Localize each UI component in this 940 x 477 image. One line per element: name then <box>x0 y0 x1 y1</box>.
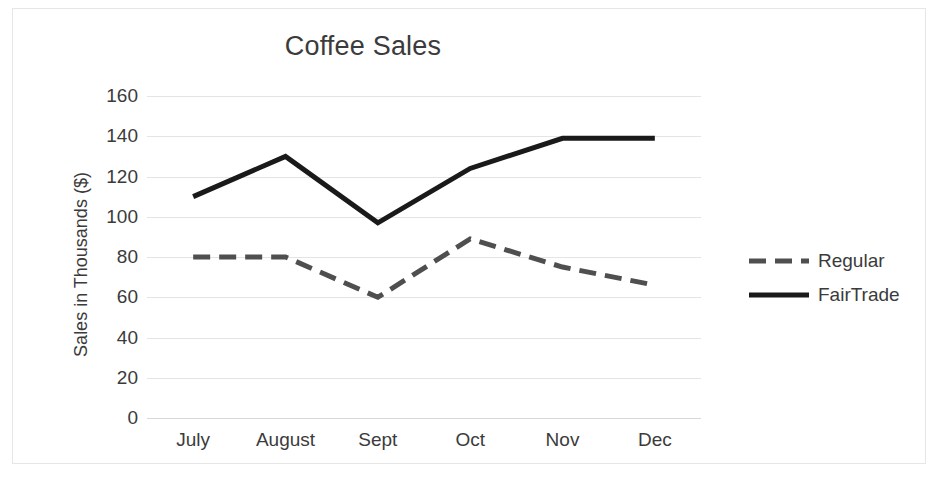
chart-legend: RegularFairTrade <box>749 244 919 312</box>
legend-item-regular[interactable]: Regular <box>749 244 919 278</box>
chart-frame: Coffee Sales Sales in Thousands ($) 0204… <box>12 8 926 464</box>
y-axis-tick-label: 0 <box>127 407 138 429</box>
plot-area: 020406080100120140160 JulyAugustSeptOctN… <box>147 96 701 418</box>
legend-swatch-icon <box>749 288 809 302</box>
y-axis-title: Sales in Thousands ($) <box>71 135 92 395</box>
gridline <box>147 418 701 419</box>
y-axis-tick-label: 100 <box>106 206 138 228</box>
legend-label: Regular <box>818 250 885 272</box>
x-axis-tick-label: Sept <box>358 429 397 451</box>
series-line-regular <box>193 239 655 297</box>
y-axis-tick-label: 140 <box>106 125 138 147</box>
x-axis-tick-label: Nov <box>546 429 580 451</box>
x-axis-tick-label: Dec <box>638 429 672 451</box>
x-axis-tick-label: August <box>256 429 315 451</box>
y-axis-tick-label: 120 <box>106 166 138 188</box>
y-axis-tick-label: 160 <box>106 85 138 107</box>
x-axis-tick-label: Oct <box>455 429 485 451</box>
y-axis-tick-label: 80 <box>117 246 138 268</box>
series-line-fairtrade <box>193 138 655 223</box>
y-axis-tick-label: 40 <box>117 327 138 349</box>
legend-swatch-icon <box>749 254 809 268</box>
x-axis-tick-label: July <box>176 429 210 451</box>
y-axis-tick-label: 60 <box>117 286 138 308</box>
y-axis-tick-label: 20 <box>117 367 138 389</box>
chart-title: Coffee Sales <box>13 31 713 62</box>
legend-item-fairtrade[interactable]: FairTrade <box>749 278 919 312</box>
legend-label: FairTrade <box>818 284 900 306</box>
series-lines <box>147 96 701 418</box>
